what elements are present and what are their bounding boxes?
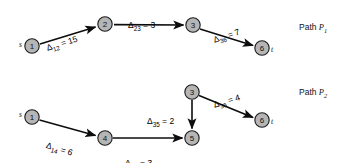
edge-label-3-5: Δ35 = 2 xyxy=(147,110,174,128)
node-p2-1: 1 xyxy=(25,110,39,124)
terminal-label-p2-source: s xyxy=(19,110,22,119)
node-p1-1: 1 xyxy=(25,39,39,53)
edge-label-2-3: Δ23 = 3 xyxy=(128,14,155,32)
svg-text:3: 3 xyxy=(190,88,195,97)
terminal-label-p2-sink: t xyxy=(271,117,274,126)
path-caption-p2: Path P2 xyxy=(299,87,327,99)
edge-label-4-5: Δ45 = 3 xyxy=(125,152,152,163)
svg-text:6: 6 xyxy=(260,44,265,53)
svg-text:5: 5 xyxy=(190,134,195,143)
node-p1-6: 6 xyxy=(255,41,269,55)
node-p2-6: 6 xyxy=(255,113,269,127)
node-p1-3: 3 xyxy=(186,18,200,32)
svg-text:3: 3 xyxy=(191,21,196,30)
terminal-label-p1-sink: t xyxy=(271,45,274,54)
svg-text:2: 2 xyxy=(103,20,108,29)
svg-text:6: 6 xyxy=(260,116,265,125)
path-diagram-figure: 1 2 3 6 1 4 5 xyxy=(0,0,352,163)
svg-text:1: 1 xyxy=(30,42,35,51)
path-caption-p1: Path P1 xyxy=(299,22,327,34)
edge-1-4 xyxy=(40,120,96,136)
terminal-label-p1-source: s xyxy=(19,40,22,49)
node-p2-4: 4 xyxy=(98,131,112,145)
node-p1-2: 2 xyxy=(98,17,112,31)
node-p2-3: 3 xyxy=(185,85,199,99)
node-p2-5: 5 xyxy=(185,131,199,145)
svg-text:4: 4 xyxy=(103,134,108,143)
svg-text:1: 1 xyxy=(30,113,35,122)
